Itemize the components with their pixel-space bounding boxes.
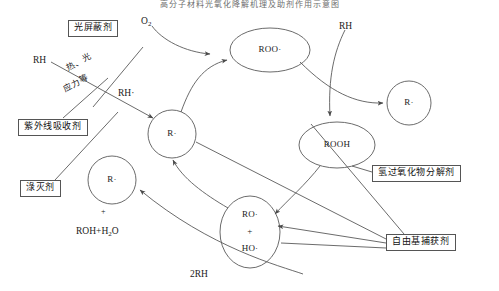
node-label-r-dot-center: R· [167, 129, 176, 138]
box-hydroperoxide-decomposer[interactable]: 氢过氧化物分解剂 [372, 165, 461, 182]
arrow-rooh-to-ro-ho [275, 166, 320, 214]
label-roh-water: ROH+H2O [76, 227, 119, 238]
node-label-ro-dot: RO· [242, 210, 258, 219]
label-2rh: 2RH [190, 270, 208, 280]
arrow-2rh-to-r-dot-left [140, 190, 303, 274]
node-label-roo-dot: ROO· [259, 45, 282, 54]
node-label-r-dot-right: R· [404, 98, 413, 107]
arrow-ro-ho-to-r-dot-center [173, 160, 228, 208]
box-light-screener[interactable]: 光屏蔽剂 [68, 20, 118, 37]
arrow-r-dot-to-roo [181, 60, 227, 112]
label-roh-water-tail: O [112, 226, 119, 236]
label-o2-symbol: O [141, 16, 148, 26]
arrow-roo-to-r-dot-right [300, 62, 383, 103]
leader-scavenger-to-r-dot-center [196, 142, 388, 240]
node-label-ro-ho-plus: + [247, 227, 252, 236]
leader-scavenger-to-ro-ho-lower [281, 243, 386, 248]
label-rh-radical: RH· [118, 89, 134, 99]
label-rh-top: RH [339, 22, 352, 32]
label-o2-subscript: 2 [148, 20, 152, 28]
arrow-rh-to-rooh [330, 30, 345, 116]
node-label-ho-dot: HO· [242, 244, 259, 253]
leader-hydroperoxide-decomposer [352, 166, 372, 172]
box-radical-scavenger[interactable]: 自由基捕获剂 [386, 234, 456, 251]
box-uv-absorber[interactable]: 紫外线吸收剂 [18, 119, 88, 136]
node-label-r-dot-left: R· [107, 175, 116, 184]
label-plus-standalone: + [101, 208, 106, 216]
box-quencher[interactable]: 淥灭剂 [20, 180, 61, 197]
label-rh-left: RH [33, 56, 46, 66]
leader-scavenger-to-ro-ho [278, 226, 386, 243]
node-label-rooh: ROOH [324, 140, 350, 149]
diagram-canvas: 高分子材料光氧化降解机理及助剂作用示意图 RH· diagonal ======… [0, 0, 499, 291]
label-o2: O2 [141, 17, 151, 28]
arrow-o2-to-roo [152, 26, 210, 54]
label-roh-water-head: ROH+H [76, 226, 108, 236]
